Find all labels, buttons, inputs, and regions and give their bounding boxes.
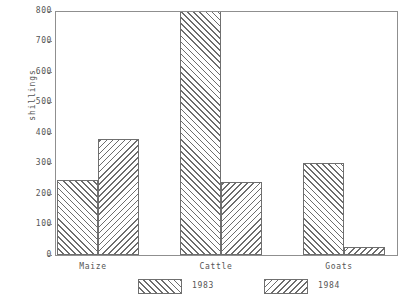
y-tick-mark-0 (47, 255, 52, 256)
bar-goats-1983 (303, 163, 344, 255)
y-axis-tick-labels: 800 700 600 500 400 300 200 100 0 (18, 0, 52, 303)
y-tick-mark-500 (47, 102, 52, 103)
bar-cattle-1983 (180, 11, 221, 255)
legend-swatch-1983 (138, 279, 182, 294)
bar-chart-figure: shillings 800 700 600 500 400 300 200 10… (0, 0, 410, 303)
y-tick-mark-700 (47, 41, 52, 42)
legend-label-1983: 1983 (192, 281, 214, 290)
x-category-label-cattle: Cattle (185, 261, 247, 272)
y-tick-mark-200 (47, 194, 52, 195)
y-tick-mark-400 (47, 133, 52, 134)
bar-goats-1984 (344, 247, 385, 255)
y-tick-mark-100 (47, 224, 52, 225)
bar-maize-1984 (98, 139, 139, 255)
bar-maize-1983 (57, 180, 98, 255)
y-tick-mark-300 (47, 163, 52, 164)
legend-label-1984: 1984 (318, 281, 340, 290)
legend: 1983 1984 (0, 277, 410, 299)
x-category-label-maize: Maize (62, 261, 124, 272)
y-tick-mark-600 (47, 72, 52, 73)
plot-area (55, 11, 398, 256)
legend-swatch-1984 (264, 279, 308, 294)
x-category-label-goats: Goats (308, 261, 370, 272)
bar-cattle-1984 (221, 182, 262, 255)
y-tick-mark-800 (47, 11, 52, 12)
